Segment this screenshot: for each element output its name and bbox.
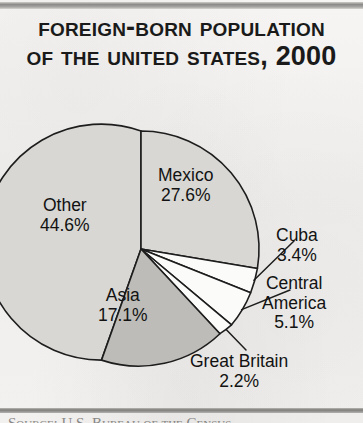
pie-label-other-name: Other	[40, 196, 90, 216]
pie-label-asia: Asia 17.1%	[98, 286, 148, 325]
pie-chart: Mexico 27.6% Other 44.6% Asia 17.1% Cuba…	[0, 84, 363, 406]
title-line-1: Foreign-Born Population	[0, 14, 363, 42]
source-note: Source: U.S. Bureau of the Census	[8, 415, 355, 423]
pie-label-central-america-name-line-2: America	[262, 294, 326, 314]
figure-title: Foreign-Born Population of the United St…	[0, 14, 363, 70]
pie-label-great-britain-name: Great Britain	[190, 352, 288, 372]
title-line-2: of the United States, 2000	[0, 43, 363, 71]
pie-label-mexico-value: 27.6%	[158, 186, 213, 206]
pie-label-central-america-value: 5.1%	[262, 313, 326, 333]
pie-label-great-britain-value: 2.2%	[190, 372, 288, 392]
pie-label-asia-value: 17.1%	[98, 306, 148, 326]
pie-label-central-america-name-line-1: Central	[262, 274, 326, 294]
pie-label-central-america: Central America 5.1%	[262, 274, 326, 333]
pie-label-cuba-name: Cuba	[276, 226, 318, 246]
pie-label-asia-name: Asia	[98, 286, 148, 306]
pie-label-mexico: Mexico 27.6%	[158, 166, 213, 205]
pie-label-other: Other 44.6%	[40, 196, 90, 235]
pie-label-mexico-name: Mexico	[158, 166, 213, 186]
pie-label-cuba-value: 3.4%	[276, 246, 318, 266]
top-divider-rule	[0, 2, 363, 9]
pie-label-cuba: Cuba 3.4%	[276, 226, 318, 265]
pie-label-other-value: 44.6%	[40, 216, 90, 236]
bottom-divider-rule	[0, 408, 363, 413]
leader-line-great-britain	[226, 330, 246, 350]
figure-page: Foreign-Born Population of the United St…	[0, 0, 363, 423]
pie-label-great-britain: Great Britain 2.2%	[190, 352, 288, 391]
